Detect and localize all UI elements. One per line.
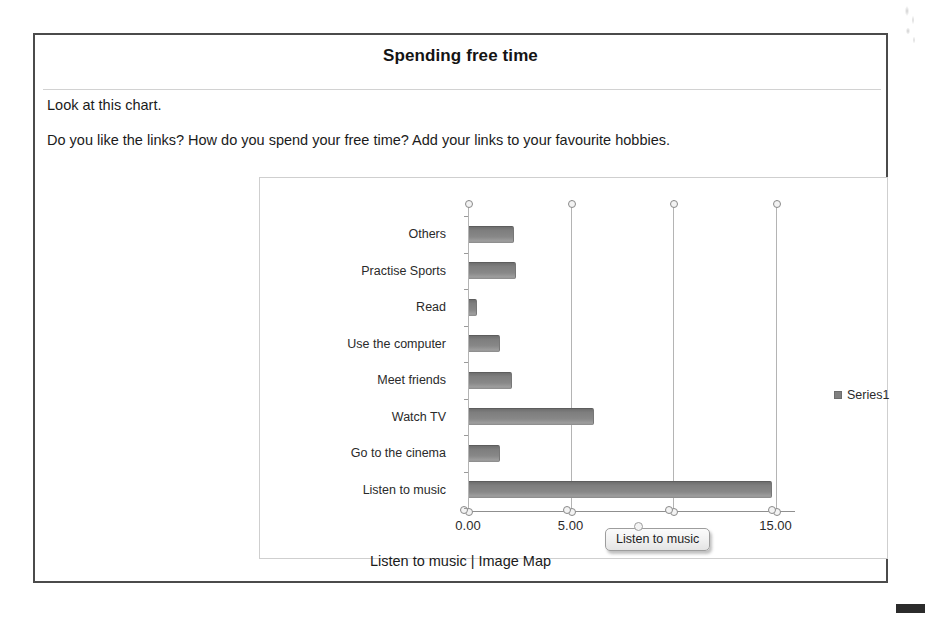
bar-read[interactable] xyxy=(469,299,477,316)
category-label-watch-tv: Watch TV xyxy=(270,399,455,436)
bar-row[interactable] xyxy=(469,326,795,363)
bar-others[interactable] xyxy=(469,226,514,243)
instructions-block: Look at this chart. Do you like the link… xyxy=(47,97,875,149)
instruction-line: Do you like the links? How do you spend … xyxy=(47,132,875,149)
chart-legend[interactable]: Series1 xyxy=(834,388,889,402)
bar-practise-sports[interactable] xyxy=(469,262,516,279)
category-tick xyxy=(464,216,468,217)
selection-handle[interactable] xyxy=(465,200,473,208)
category-tick xyxy=(464,472,468,473)
image-map-caption: Listen to music | Image Map xyxy=(35,553,886,569)
instruction-line: Look at this chart. xyxy=(47,97,875,114)
category-tick xyxy=(464,326,468,327)
chart-tooltip: Listen to music xyxy=(605,528,710,551)
header-divider xyxy=(43,89,881,90)
category-label-meet-friends: Meet friends xyxy=(270,362,455,399)
category-label-practise-sports: Practise Sports xyxy=(270,253,455,290)
selection-handle[interactable] xyxy=(568,200,576,208)
category-label-use-the-computer: Use the computer xyxy=(270,326,455,363)
bar-row[interactable] xyxy=(469,216,795,253)
category-tick xyxy=(464,399,468,400)
bar-row[interactable] xyxy=(469,362,795,399)
scan-artifact-top-right xyxy=(903,6,919,46)
chart-plot-area[interactable]: OthersPractise SportsReadUse the compute… xyxy=(260,178,887,558)
bar-row[interactable] xyxy=(469,289,795,326)
category-tick xyxy=(464,289,468,290)
category-tick xyxy=(464,435,468,436)
page-title: Spending free time xyxy=(35,46,886,66)
bar-watch-tv[interactable] xyxy=(469,408,594,425)
value-axis-line xyxy=(468,511,795,512)
category-label-listen-to-music: Listen to music xyxy=(270,472,455,509)
bar-row[interactable] xyxy=(469,435,795,472)
category-axis-labels: OthersPractise SportsReadUse the compute… xyxy=(270,216,455,508)
bar-series[interactable] xyxy=(469,216,795,508)
legend-swatch-icon xyxy=(834,391,842,399)
category-tick xyxy=(464,253,468,254)
bar-go-to-the-cinema[interactable] xyxy=(469,445,500,462)
value-tick-label: 5.00 xyxy=(558,518,583,533)
bar-use-the-computer[interactable] xyxy=(469,335,500,352)
value-tick-label: 0.00 xyxy=(455,518,480,533)
tooltip-label: Listen to music xyxy=(616,532,699,546)
bar-listen-to-music[interactable] xyxy=(469,481,772,498)
legend-entry-label: Series1 xyxy=(847,388,889,402)
scan-artifact-bottom-right xyxy=(896,604,925,613)
bar-row[interactable] xyxy=(469,253,795,290)
bar-meet-friends[interactable] xyxy=(469,372,512,389)
category-label-read: Read xyxy=(270,289,455,326)
category-label-others: Others xyxy=(270,216,455,253)
category-tick xyxy=(464,362,468,363)
selection-handle[interactable] xyxy=(773,200,781,208)
chart-object[interactable]: OthersPractise SportsReadUse the compute… xyxy=(259,177,888,559)
selection-handle[interactable] xyxy=(670,200,678,208)
exercise-page-frame: Spending free time Look at this chart. D… xyxy=(33,33,888,583)
category-tick xyxy=(464,508,468,509)
bar-row[interactable] xyxy=(469,399,795,436)
tooltip-anchor-dot xyxy=(634,522,643,531)
value-tick-label: 15.00 xyxy=(759,518,792,533)
category-label-go-to-the-cinema: Go to the cinema xyxy=(270,435,455,472)
bar-row[interactable] xyxy=(469,472,795,509)
